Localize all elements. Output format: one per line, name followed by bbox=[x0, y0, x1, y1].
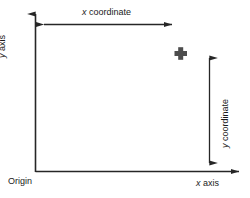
y-axis-label-rest: axis bbox=[0, 35, 7, 54]
y-coordinate-label-rest: coordinate bbox=[220, 99, 230, 144]
x-coordinate-label: x coordinate bbox=[82, 8, 131, 17]
x-axis-label: x axis bbox=[196, 179, 219, 188]
coordinate-diagram: x coordinate y coordinate y axis x axis … bbox=[0, 0, 250, 198]
plot-point-plus-icon bbox=[175, 47, 188, 60]
x-coordinate-label-rest: coordinate bbox=[87, 7, 132, 17]
diagram-canvas bbox=[0, 0, 250, 198]
x-axis-label-rest: axis bbox=[201, 178, 220, 188]
y-coordinate-label-italic: y bbox=[220, 144, 230, 149]
origin-label: Origin bbox=[8, 177, 32, 186]
y-coordinate-label: y coordinate bbox=[221, 99, 230, 148]
y-axis-label: y axis bbox=[0, 35, 7, 58]
y-axis-label-italic: y bbox=[0, 54, 7, 59]
